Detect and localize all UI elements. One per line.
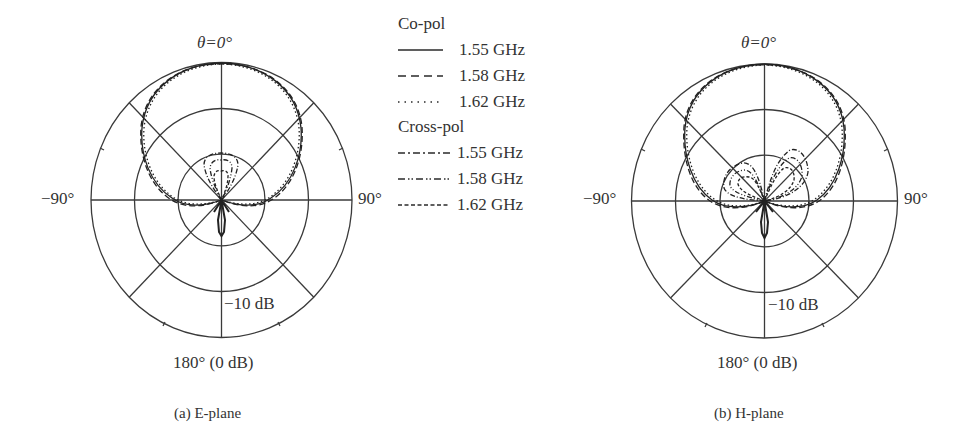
- e-plane-ring-label: −10 dB: [224, 295, 275, 312]
- e-plane-caption: (a) E-plane: [174, 406, 241, 421]
- legend-crosspol-1.55-label: 1.55 GHz: [457, 144, 523, 161]
- legend-crosspol-title: Cross-pol: [398, 118, 464, 135]
- legend-crosspol-1.62-label: 1.62 GHz: [457, 196, 523, 213]
- h-crosspol-1.62-curve: [738, 168, 794, 201]
- h-plane-bottom-label: 180° (0 dB): [717, 354, 797, 371]
- legend-copol-1.62-label: 1.62 GHz: [459, 93, 525, 110]
- legend-crosspol-1.58-label: 1.58 GHz: [457, 170, 523, 187]
- h-crosspol-1.55-curve: [724, 150, 808, 201]
- h-plane-caption: (b) H-plane: [714, 406, 784, 421]
- h-plane-top-label: θ=0°: [741, 34, 776, 51]
- h-plane-left-label: −90°: [583, 190, 616, 207]
- h-plane-right-label: 90°: [904, 190, 928, 207]
- tick: [641, 149, 645, 151]
- e-plane-bottom-label: 180° (0 dB): [173, 354, 253, 371]
- e-plane-right-label: 90°: [358, 190, 382, 207]
- tick: [884, 149, 888, 151]
- h-plane-ring-label: −10 dB: [768, 296, 819, 313]
- legend-copol-1.55-label: 1.55 GHz: [459, 41, 525, 58]
- legend-copol-1.58-label: 1.58 GHz: [459, 67, 525, 84]
- legend-copol-title: Co-pol: [398, 15, 445, 32]
- e-plane-left-label: −90°: [41, 190, 74, 207]
- e-plane-top-label: θ=0°: [197, 34, 232, 51]
